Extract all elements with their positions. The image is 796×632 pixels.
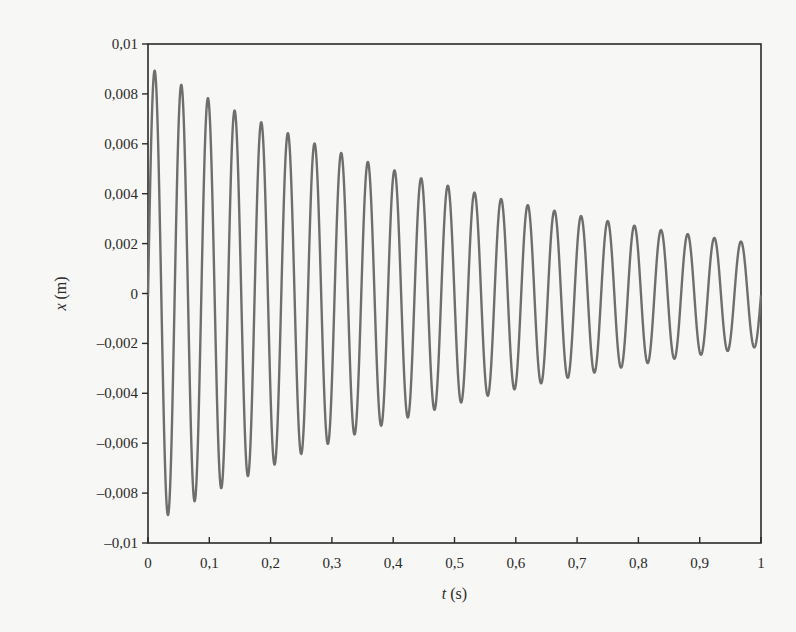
y-tick-label: –0,01 — [103, 535, 138, 551]
x-tick-label: 0,7 — [568, 555, 587, 571]
x-tick-label: 1 — [757, 555, 765, 571]
x-tick-label: 0,4 — [384, 555, 403, 571]
plot-area — [148, 44, 761, 543]
x-tick-label: 0,1 — [200, 555, 219, 571]
x-tick-label: 0,9 — [690, 555, 709, 571]
y-tick-label: –0,006 — [96, 435, 139, 451]
x-tick-label: 0,6 — [506, 555, 525, 571]
x-tick-label: 0 — [144, 555, 152, 571]
x-axis: 00,10,20,30,40,50,60,70,80,91 — [144, 537, 765, 571]
x-tick-label: 0,5 — [445, 555, 464, 571]
x-axis-unit: (s) — [446, 585, 467, 603]
y-tick-label: 0,006 — [104, 136, 138, 152]
x-axis-label: t (s) — [442, 585, 467, 603]
y-tick-label: –0,004 — [96, 385, 139, 401]
y-tick-label: 0,008 — [104, 86, 138, 102]
y-axis: 0,010,0080,0060,0040,0020–0,002–0,004–0,… — [96, 36, 148, 551]
y-tick-label: 0,002 — [104, 236, 138, 252]
y-tick-label: 0,004 — [104, 186, 138, 202]
chart-svg: 0,010,0080,0060,0040,0020–0,002–0,004–0,… — [0, 0, 796, 632]
y-tick-label: 0,01 — [112, 36, 138, 52]
x-tick-label: 0,8 — [629, 555, 648, 571]
y-tick-label: –0,002 — [96, 335, 138, 351]
y-tick-label: –0,008 — [96, 485, 138, 501]
x-tick-label: 0,2 — [261, 555, 280, 571]
y-tick-label: 0 — [131, 286, 139, 302]
y-axis-variable: x — [52, 304, 69, 312]
y-axis-unit: (m) — [52, 276, 70, 303]
damped-oscillation-line — [148, 71, 761, 515]
y-axis-label: x (m) — [52, 276, 70, 311]
x-tick-label: 0,3 — [323, 555, 342, 571]
